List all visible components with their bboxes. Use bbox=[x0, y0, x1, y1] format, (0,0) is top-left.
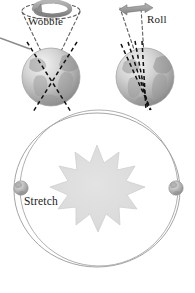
circular-rotation-arrow-icon bbox=[34, 1, 70, 15]
earth-globe-left bbox=[22, 48, 80, 106]
pointer-line bbox=[0, 38, 30, 49]
wobble-label: Wobble bbox=[28, 16, 63, 27]
figure-canvas bbox=[0, 0, 195, 293]
eccentricity-panel bbox=[14, 110, 183, 267]
milankovitch-cycles-figure: Wobble Roll Stretch bbox=[0, 0, 195, 293]
stretch-label: Stretch bbox=[24, 196, 58, 208]
roll-label: Roll bbox=[147, 14, 167, 25]
orbit-earth-right bbox=[169, 181, 183, 199]
sun-starburst bbox=[50, 145, 145, 232]
